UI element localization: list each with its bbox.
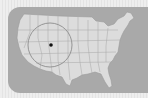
us-map[interactable] — [0, 0, 148, 98]
us-land — [17, 12, 134, 88]
location-marker-icon[interactable] — [49, 43, 53, 47]
